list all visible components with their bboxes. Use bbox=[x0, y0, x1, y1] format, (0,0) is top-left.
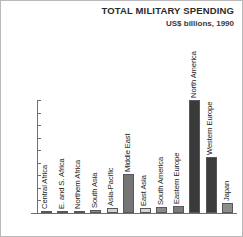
bar-category-label: North America bbox=[189, 51, 198, 98]
y-axis-tick: 0 bbox=[1, 213, 43, 214]
bar-group: Central Africa bbox=[41, 100, 52, 213]
bar-category-label: Central Africa bbox=[40, 165, 49, 209]
bar-category-label: Middle East bbox=[123, 134, 132, 173]
bar-category-label: Northern Africa bbox=[73, 160, 82, 209]
bar bbox=[107, 208, 118, 213]
chart-title: TOTAL MILITARY SPENDING bbox=[101, 5, 234, 17]
bar-category-label: E. and S. Africa bbox=[57, 158, 66, 209]
bar-category-label: East Asia bbox=[139, 175, 148, 206]
y-axis-tick: 250 bbox=[1, 150, 43, 151]
y-axis-tick-mark bbox=[37, 213, 41, 214]
y-axis-tick: 150 bbox=[1, 175, 43, 176]
y-axis-tick: 100 bbox=[1, 188, 43, 189]
bar-category-label: Western Europe bbox=[205, 102, 214, 155]
y-axis-tick: 200 bbox=[1, 163, 43, 164]
bar-group: South Asia bbox=[90, 100, 101, 213]
bar bbox=[41, 211, 52, 213]
bar bbox=[156, 207, 167, 213]
bar-group: Middle East bbox=[123, 100, 134, 213]
bar bbox=[90, 210, 101, 214]
y-axis-tick: 50 bbox=[1, 200, 43, 201]
bar bbox=[57, 211, 68, 213]
bar bbox=[74, 211, 85, 213]
y-axis-tick: 350 bbox=[1, 125, 43, 126]
bar bbox=[140, 208, 151, 213]
bar-group: Japan bbox=[222, 100, 233, 213]
chart-subtitle: US$ billions, 1990 bbox=[101, 18, 234, 29]
chart-figure: TOTAL MILITARY SPENDING US$ billions, 19… bbox=[0, 0, 243, 237]
bar-category-label: Eastern Europe bbox=[172, 153, 181, 204]
bar bbox=[189, 100, 200, 213]
bar bbox=[123, 174, 134, 213]
bar bbox=[222, 203, 233, 213]
y-axis-tick: 400 bbox=[1, 113, 43, 114]
chart-title-block: TOTAL MILITARY SPENDING US$ billions, 19… bbox=[101, 5, 234, 29]
bar bbox=[206, 157, 217, 213]
bar-category-label: Japan bbox=[222, 181, 231, 201]
bar-category-label: South Asia bbox=[90, 172, 99, 207]
y-axis-tick: 450 bbox=[1, 100, 43, 101]
x-axis-line bbox=[31, 213, 237, 214]
bar-group: Western Europe bbox=[206, 100, 217, 213]
y-axis-tick: 300 bbox=[1, 138, 43, 139]
bar-group: Eastern Europe bbox=[173, 100, 184, 213]
bar-group: Asia-Pacific bbox=[107, 100, 118, 213]
bar-group: E. and S. Africa bbox=[57, 100, 68, 213]
bar-group: East Asia bbox=[140, 100, 151, 213]
bar-category-label: Asia-Pacific bbox=[106, 168, 115, 206]
bar-category-label: South America bbox=[156, 157, 165, 205]
bar-group: Northern Africa bbox=[74, 100, 85, 213]
bar bbox=[173, 206, 184, 213]
bar-group: South America bbox=[156, 100, 167, 213]
bar-group: North America bbox=[189, 100, 200, 213]
bar-series: Central AfricaE. and S. AfricaNorthern A… bbox=[38, 100, 236, 213]
